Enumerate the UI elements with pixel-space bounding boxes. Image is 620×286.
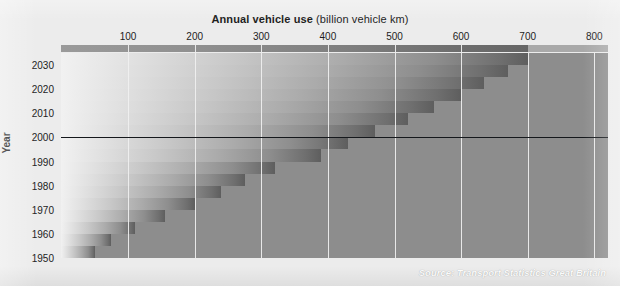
source-note: Source: Transport Statistics Great Brita… xyxy=(419,267,606,278)
x-axis-tick-400 xyxy=(328,45,329,52)
x-axis-scale-bar-tail xyxy=(528,45,608,52)
gridline-200 xyxy=(195,53,196,258)
x-axis-tick-labels: 100200300400500600700800 xyxy=(0,31,620,44)
bar-step xyxy=(61,101,434,113)
y-tick-label-1990: 1990 xyxy=(14,156,54,167)
gridline-500 xyxy=(395,53,396,258)
y-tick-label-2000: 2000 xyxy=(14,132,54,143)
y-tick-label-2030: 2030 xyxy=(14,60,54,71)
y-tick-label-1960: 1960 xyxy=(14,228,54,239)
x-tick-label-300: 300 xyxy=(253,31,270,42)
gridline-100 xyxy=(128,53,129,258)
x-axis-scale-bar xyxy=(61,45,528,52)
x-axis-tick-300 xyxy=(261,45,262,52)
gridline-800 xyxy=(594,53,595,258)
x-tick-label-700: 700 xyxy=(519,31,536,42)
gridline-700 xyxy=(528,53,529,258)
x-tick-label-800: 800 xyxy=(586,31,603,42)
chart-title-units: (billion vehicle km) xyxy=(313,13,409,25)
bar-step xyxy=(61,174,245,186)
bar-step xyxy=(61,53,528,65)
year-2000-highlight-line xyxy=(61,137,608,138)
bar-step xyxy=(61,222,135,234)
bar-step xyxy=(61,246,95,258)
bar-step xyxy=(61,77,484,89)
gridline-600 xyxy=(461,53,462,258)
x-axis-tick-500 xyxy=(395,45,396,52)
x-axis-tick-200 xyxy=(195,45,196,52)
y-tick-label-1950: 1950 xyxy=(14,253,54,264)
x-axis-tick-100 xyxy=(128,45,129,52)
gridline-400 xyxy=(328,53,329,258)
bar-step xyxy=(61,137,348,149)
y-axis-title: Year xyxy=(1,132,12,153)
x-tick-label-500: 500 xyxy=(386,31,403,42)
x-axis-tick-600 xyxy=(461,45,462,52)
bar-step xyxy=(61,234,111,246)
plot-area xyxy=(61,53,608,258)
x-tick-label-400: 400 xyxy=(320,31,337,42)
y-tick-label-1970: 1970 xyxy=(14,204,54,215)
bar-step xyxy=(61,210,165,222)
x-tick-label-100: 100 xyxy=(120,31,137,42)
bar-step xyxy=(61,162,275,174)
x-tick-label-600: 600 xyxy=(453,31,470,42)
bar-step xyxy=(61,113,408,125)
chart-title: Annual vehicle use (billion vehicle km) xyxy=(0,13,620,25)
chart-figure: Annual vehicle use (billion vehicle km) … xyxy=(0,0,620,286)
bar-step xyxy=(61,186,221,198)
y-tick-label-2020: 2020 xyxy=(14,84,54,95)
x-tick-label-200: 200 xyxy=(186,31,203,42)
y-tick-label-2010: 2010 xyxy=(14,108,54,119)
chart-title-strong: Annual vehicle use xyxy=(211,13,312,25)
bar-step xyxy=(61,149,321,161)
gridline-300 xyxy=(261,53,262,258)
y-tick-label-1980: 1980 xyxy=(14,180,54,191)
